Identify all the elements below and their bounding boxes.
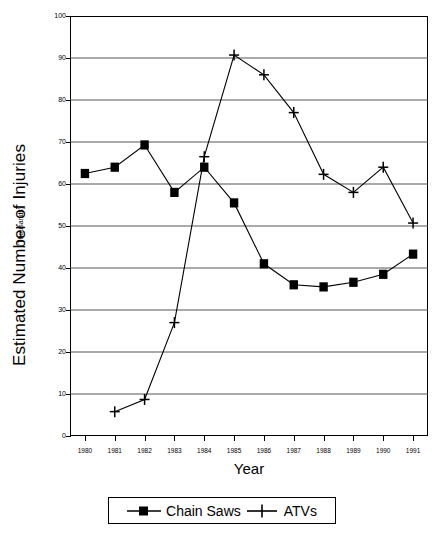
y-tick-mark: [66, 100, 71, 101]
square-marker-icon: [127, 504, 161, 518]
x-tick-label: 1991: [396, 447, 430, 454]
x-axis-title: Year: [70, 460, 428, 477]
x-tick-mark: [234, 436, 235, 441]
x-tick-mark: [145, 436, 146, 441]
legend-label-atvs: ATVs: [284, 504, 317, 518]
x-tick-mark: [85, 436, 86, 441]
x-tick-mark: [264, 436, 265, 441]
y-tick-mark: [66, 58, 71, 59]
plus-marker-icon: [245, 504, 279, 518]
legend-label-chain-saws: Chain Saws: [166, 504, 241, 518]
x-tick-mark: [413, 436, 414, 441]
y-tick-mark: [66, 352, 71, 353]
legend-item-atvs: ATVs: [245, 504, 317, 518]
y-tick-mark: [66, 184, 71, 185]
x-axis-tick-labels: 1980198119821983198419851986198719881989…: [0, 0, 441, 533]
x-tick-mark: [204, 436, 205, 441]
x-tick-mark: [383, 436, 384, 441]
y-tick-mark: [66, 226, 71, 227]
chart-legend: Chain Saws ATVs: [108, 497, 336, 524]
y-tick-mark: [66, 394, 71, 395]
x-tick-mark: [294, 436, 295, 441]
x-tick-mark: [174, 436, 175, 441]
y-tick-mark: [66, 16, 71, 17]
x-tick-mark: [324, 436, 325, 441]
x-tick-mark: [353, 436, 354, 441]
x-tick-mark: [115, 436, 116, 441]
injury-trend-line-chart: Estimated Number of Injuries (Thousands)…: [0, 0, 441, 533]
y-tick-mark: [66, 310, 71, 311]
y-tick-mark: [66, 268, 71, 269]
y-tick-mark: [66, 436, 71, 437]
legend-item-chain-saws: Chain Saws: [127, 504, 241, 518]
y-tick-mark: [66, 142, 71, 143]
